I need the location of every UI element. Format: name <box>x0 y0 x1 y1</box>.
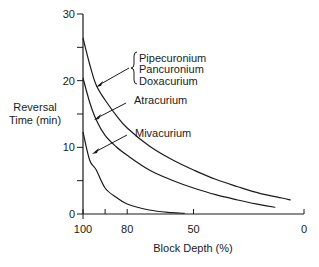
brace-icon <box>131 52 137 84</box>
x-tick-label: 50 <box>187 223 199 235</box>
y-tick-label: 10 <box>63 141 75 153</box>
label-atracurium: Atracurium <box>134 94 187 106</box>
y-tick-label: 30 <box>63 8 75 20</box>
svg-text:Time (min): Time (min) <box>9 114 61 126</box>
y-axis-title: Reversal Time (min) <box>9 101 61 126</box>
y-tick-label: 20 <box>63 75 75 87</box>
series-curve-2 <box>83 132 185 213</box>
x-tick-label: 0 <box>301 223 307 235</box>
reversal-time-chart: 010203010080500 Pipecuronium Pancuronium… <box>0 0 319 267</box>
x-tick-label: 80 <box>121 223 133 235</box>
label-pancuronium: Pancuronium <box>139 63 204 75</box>
x-tick-label: 100 <box>74 223 92 235</box>
x-axis-title: Block Depth (%) <box>153 242 232 254</box>
annotations: Pipecuronium Pancuronium Doxacurium Atra… <box>92 52 206 154</box>
y-tick-label: 0 <box>69 208 75 220</box>
arrow-icon <box>96 68 129 87</box>
axes: 010203010080500 <box>63 8 307 235</box>
label-doxacurium: Doxacurium <box>139 75 198 87</box>
svg-text:Reversal: Reversal <box>13 101 56 113</box>
arrow-icon <box>94 103 126 120</box>
label-mivacurium: Mivacurium <box>135 127 191 139</box>
